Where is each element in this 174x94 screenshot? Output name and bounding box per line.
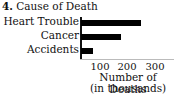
x-axis-sublabel: (in thousands) <box>88 82 168 94</box>
category-label-accidents: Accidents <box>27 43 79 55</box>
bar-heart-trouble <box>81 20 141 26</box>
bar-cancer <box>81 34 121 40</box>
bar-accidents <box>81 48 93 54</box>
question-number: 4. <box>2 0 13 12</box>
category-label-cancer: Cancer <box>41 29 79 41</box>
category-label-heart-trouble: Heart Trouble <box>3 15 79 27</box>
title-text: Cause of Death <box>16 0 97 12</box>
chart-title: 4. Cause of Death <box>2 0 98 12</box>
x-axis <box>80 59 174 60</box>
